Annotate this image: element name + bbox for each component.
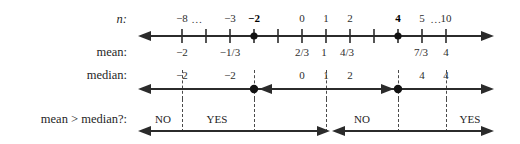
comparison-axis	[0, 0, 520, 144]
comparison-mid-left-arrowhead	[332, 126, 345, 136]
comparison-mid-right-arrowhead	[317, 126, 330, 136]
comparison-left-arrowhead	[138, 126, 151, 136]
comparison-right-arrowhead	[481, 126, 494, 136]
number-line-figure: n: −8−3−20124510 …… mean: −2−1/32/314/37…	[0, 0, 520, 144]
